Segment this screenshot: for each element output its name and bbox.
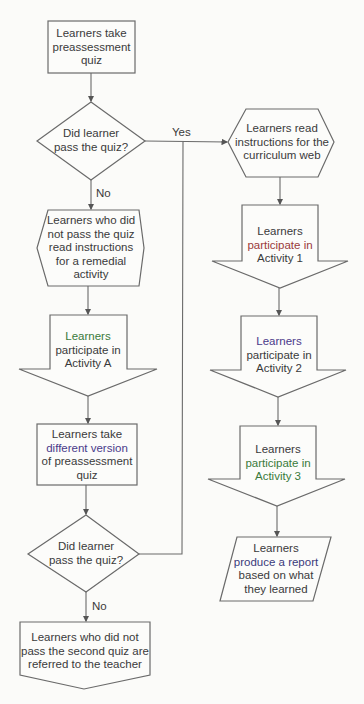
text-line: preassessment <box>48 41 135 55</box>
text-line: curriculum web <box>232 149 332 163</box>
text-line: for a remedial <box>40 255 142 269</box>
text-line: produce a report <box>226 556 326 570</box>
text-line: participate in <box>232 239 328 253</box>
text-line: Learners <box>231 335 327 349</box>
text-line: participate in <box>231 349 327 363</box>
text-line: Activity 3 <box>230 470 326 484</box>
activity1-label: Learners participate in Activity 1 <box>232 225 328 266</box>
text-line: pass the quiz? <box>40 141 142 155</box>
text-line: pass the quiz? <box>35 554 137 568</box>
remedial-prep-label: Learners who did not pass the quiz read … <box>40 214 142 282</box>
decision2-label: Did learner pass the quiz? <box>35 540 137 567</box>
text-line: Learners <box>230 443 326 457</box>
text-line: not pass the quiz <box>40 228 142 242</box>
text-line: Did learner <box>40 127 142 141</box>
text-line: Learners <box>226 542 326 556</box>
text-line: Learners who did not <box>20 631 150 645</box>
text-line: Learners take <box>48 27 135 41</box>
text-line: quiz <box>37 469 137 483</box>
start-label: Learners take preassessment quiz <box>48 27 135 68</box>
text-line: Did learner <box>35 540 137 554</box>
text-line: referred to the teacher <box>20 658 150 672</box>
text-line: Learners who did <box>40 214 142 228</box>
connector-decision2-yes <box>139 142 183 554</box>
text-line: instructions for the <box>232 136 332 150</box>
text-line: quiz <box>48 54 135 68</box>
text-line: pass the second quiz are <box>20 645 150 659</box>
text-line: they learned <box>226 583 326 597</box>
yes-label: Yes <box>172 126 191 138</box>
text-line: participate in <box>230 457 326 471</box>
web-prep-label: Learners read instructions for the curri… <box>232 122 332 163</box>
decision1-label: Did learner pass the quiz? <box>40 127 142 154</box>
text-line: Learners take <box>37 428 137 442</box>
activity-a-label: Learners participate in Activity A <box>40 330 136 371</box>
text-line: Learners read <box>232 122 332 136</box>
connector-decision1-yes <box>145 141 227 142</box>
retake-label: Learners take different version of preas… <box>37 428 137 482</box>
text-line: participate in <box>40 344 136 358</box>
report-label: Learners produce a report based on what … <box>226 542 326 596</box>
text-line: Activity 2 <box>231 362 327 376</box>
text-line: Learners <box>232 225 328 239</box>
referred-label: Learners who did not pass the second qui… <box>20 631 150 672</box>
no-label-2: No <box>92 600 107 612</box>
text-line: Activity 1 <box>232 252 328 266</box>
activity2-label: Learners participate in Activity 2 <box>231 335 327 376</box>
activity3-label: Learners participate in Activity 3 <box>230 443 326 484</box>
text-line: read instructions <box>40 241 142 255</box>
text-line: Learners <box>40 330 136 344</box>
text-line: of preassessment <box>37 455 137 469</box>
text-line: different version <box>37 442 137 456</box>
text-line: based on what <box>226 569 326 583</box>
text-line: activity <box>40 268 142 282</box>
text-line: Activity A <box>40 357 136 371</box>
no-label-1: No <box>96 187 111 199</box>
